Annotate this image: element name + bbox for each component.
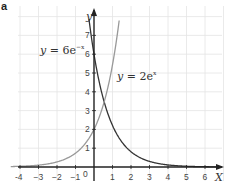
y-axis-label: y [85,10,93,23]
y-tick-label: 2 [85,124,90,134]
x-tick-label: 4 [166,172,171,182]
y-tick-label: 6 [85,49,90,59]
chart: -4−3−2−11234561234567 y X 0 y = 6e−x y =… [0,0,228,185]
x-axis-label: X [214,171,224,184]
x-tick-label: −2 [52,172,62,182]
equation-2e-x: y = 2ex [116,69,157,83]
equation-6e-neg-x: y = 6e−x [39,43,85,57]
x-tick-label: −1 [71,172,81,182]
y-tick-label: 3 [85,106,90,116]
grid [18,6,224,181]
x-tick-label: 3 [147,172,152,182]
origin-label: 0 [83,169,88,179]
y-tick-label: 4 [85,87,90,97]
x-tick-label: −3 [34,172,44,182]
y-tick-label: 7 [85,30,90,40]
y-tick-label: 5 [85,68,90,78]
x-tick-label: -4 [15,172,23,182]
x-tick-label: 5 [184,172,189,182]
curve-6e-neg-x [89,19,218,167]
x-tick-label: 6 [203,172,208,182]
x-tick-label: 1 [110,172,115,182]
curve-2e-x [11,21,119,167]
y-tick-label: 1 [85,143,90,153]
x-axis-arrow-icon [216,164,224,170]
x-tick-label: 2 [129,172,134,182]
